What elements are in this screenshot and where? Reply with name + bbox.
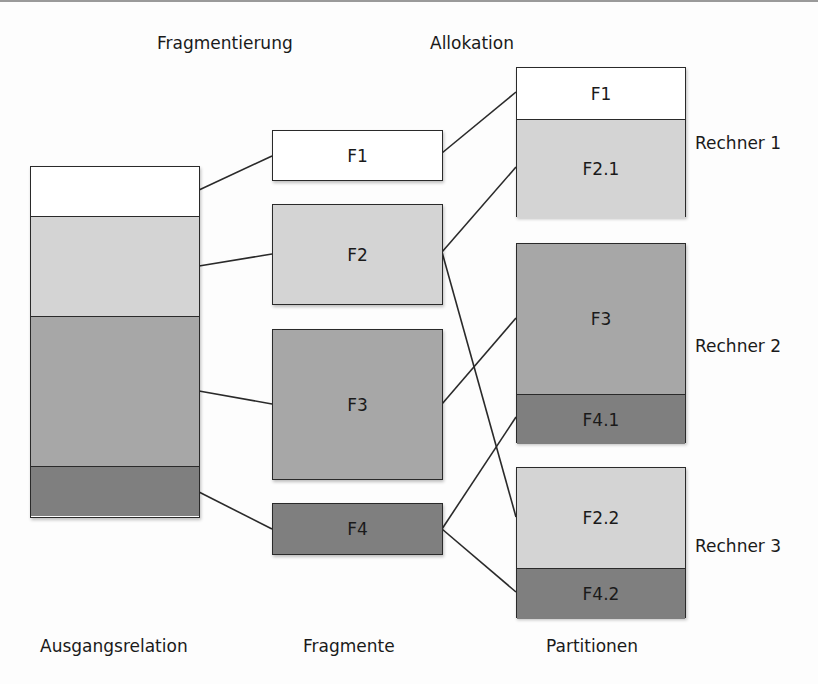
fragment-label: F3 (347, 395, 368, 415)
fragment-label: F4 (347, 519, 368, 539)
line-f1-rechner1 (442, 92, 516, 153)
line-f3-rechner2 (442, 318, 516, 404)
relation-segment-4 (31, 466, 199, 516)
partition-part-f4-1: F4.1 (517, 394, 685, 444)
partition-part-f3: F3 (517, 244, 685, 394)
footer-partitionen: Partitionen (546, 636, 638, 656)
fragment-f2: F2 (272, 204, 443, 305)
line-relation-f1 (199, 156, 272, 190)
line-f4-rechner2 (442, 417, 516, 529)
partition-part-f2-1: F2.1 (517, 119, 685, 218)
line-f2-rechner1 (442, 167, 516, 252)
relation-segment-1 (31, 167, 199, 216)
footer-fragmente: Fragmente (303, 636, 395, 656)
ausgangsrelation-box (30, 166, 200, 518)
heading-allokation: Allokation (430, 33, 514, 53)
partition-part-label: F1 (591, 84, 612, 104)
fragment-f4: F4 (272, 503, 443, 555)
node-label-rechner-3: Rechner 3 (695, 536, 781, 556)
relation-segment-2 (31, 216, 199, 316)
partition-part-f1: F1 (517, 68, 685, 119)
fragment-label: F1 (347, 146, 368, 166)
line-f4-rechner3 (442, 529, 516, 592)
fragment-f3: F3 (272, 329, 443, 480)
relation-segment-3 (31, 316, 199, 466)
partition-part-label: F2.2 (583, 508, 620, 528)
node-label-rechner-2: Rechner 2 (695, 336, 781, 356)
node-label-rechner-1: Rechner 1 (695, 133, 781, 153)
line-relation-f2 (199, 254, 272, 266)
line-relation-f4 (199, 492, 272, 529)
fragment-label: F2 (347, 245, 368, 265)
line-relation-f3 (199, 391, 272, 404)
heading-fragmentierung: Fragmentierung (157, 33, 293, 53)
partition-part-f2-2: F2.2 (517, 468, 685, 568)
fragment-f1: F1 (272, 130, 443, 181)
line-f2-rechner3 (442, 252, 516, 517)
partition-part-f4-2: F4.2 (517, 568, 685, 619)
partition-part-label: F4.1 (583, 410, 620, 430)
partition-part-label: F4.2 (583, 584, 620, 604)
partition-rechner-2: F3 F4.1 (516, 243, 686, 443)
partition-rechner-3: F2.2 F4.2 (516, 467, 686, 618)
partition-part-label: F3 (591, 309, 612, 329)
top-border (0, 0, 818, 2)
partition-part-label: F2.1 (583, 159, 620, 179)
partition-rechner-1: F1 F2.1 (516, 67, 686, 217)
footer-ausgangsrelation: Ausgangsrelation (40, 636, 188, 656)
